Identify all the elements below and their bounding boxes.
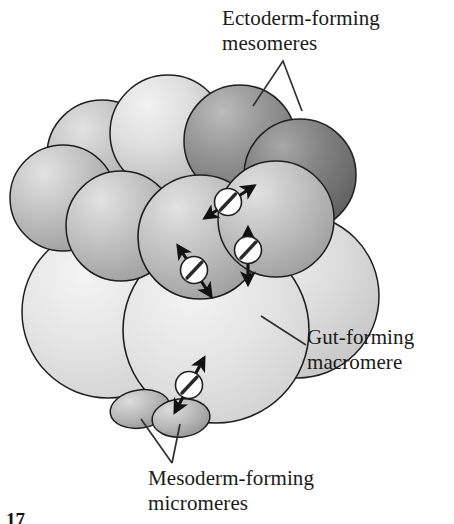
mitotic-spindle-b <box>235 237 262 264</box>
mitotic-spindle-d <box>176 372 203 399</box>
embryo-diagram <box>0 0 454 524</box>
mitotic-spindle-a <box>215 189 242 216</box>
label-mesoderm-forming-micromeres: Mesoderm-forming micromeres <box>148 466 314 516</box>
label-gut-forming-macromere: Gut-forming macromere <box>307 325 414 375</box>
mitotic-spindle-c <box>181 257 208 284</box>
mesomere-right-front <box>218 161 334 277</box>
label-ectoderm-forming-mesomeres: Ectoderm-forming mesomeres <box>222 6 380 56</box>
figure-root: Ectoderm-forming mesomeres Gut-forming m… <box>0 0 454 524</box>
figure-number: 17 <box>6 509 25 524</box>
